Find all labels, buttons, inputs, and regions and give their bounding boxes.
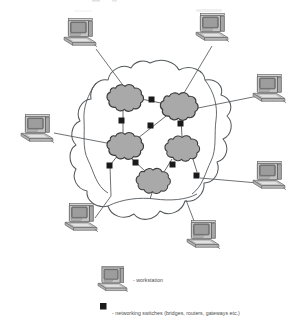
workstation-right-lower[interactable] [253, 162, 286, 190]
switch-marker-7[interactable] [170, 162, 176, 168]
link-ws-right-upper [198, 96, 258, 108]
core-cloud-nw[interactable] [107, 85, 144, 112]
core-cloud-ne[interactable] [160, 93, 198, 121]
switch-marker-5[interactable] [107, 163, 113, 169]
link-ws-left-upper [54, 133, 112, 144]
workstation-right-upper[interactable] [253, 75, 286, 103]
switch-marker-2[interactable] [119, 118, 125, 124]
legend-item-workstation: - workstation [98, 266, 163, 292]
legend-workstation-icon [98, 266, 128, 292]
legend-switch-label: - networking switches (bridges, routers,… [112, 310, 240, 316]
legend: - workstation - networking switches (bri… [98, 266, 240, 316]
legend-workstation-label: - workstation [133, 277, 163, 283]
link-ws-top-right [181, 46, 212, 98]
link-w-ne [138, 113, 170, 138]
switch-marker-4[interactable] [178, 121, 184, 127]
workstation-left-lower[interactable] [65, 204, 98, 232]
legend-switch-square-icon [100, 303, 107, 310]
workstation-left-upper[interactable] [21, 115, 54, 143]
wan-cloud-outline [70, 60, 231, 219]
switch-marker-8[interactable] [194, 173, 200, 179]
workstations-group [21, 14, 286, 249]
diagram-canvas: - workstation - networking switches (bri… [0, 0, 299, 332]
switch-marker-3[interactable] [148, 123, 154, 129]
link-outer-sw-left [110, 166, 111, 196]
network-diagram-figure: - workstation - networking switches (bri… [0, 0, 299, 332]
core-cloud-e[interactable] [165, 136, 200, 161]
workstation-bottom[interactable] [187, 221, 220, 249]
workstation-top-left[interactable] [64, 19, 97, 47]
cut-off-title-artifact [74, 0, 222, 12]
workstation-top-right[interactable] [196, 14, 229, 42]
switch-marker-1[interactable] [149, 97, 155, 103]
core-cloud-w[interactable] [107, 133, 144, 160]
switch-marker-6[interactable] [133, 160, 139, 166]
core-cloud-s[interactable] [136, 168, 170, 193]
legend-item-switch: - networking switches (bridges, routers,… [100, 303, 240, 316]
